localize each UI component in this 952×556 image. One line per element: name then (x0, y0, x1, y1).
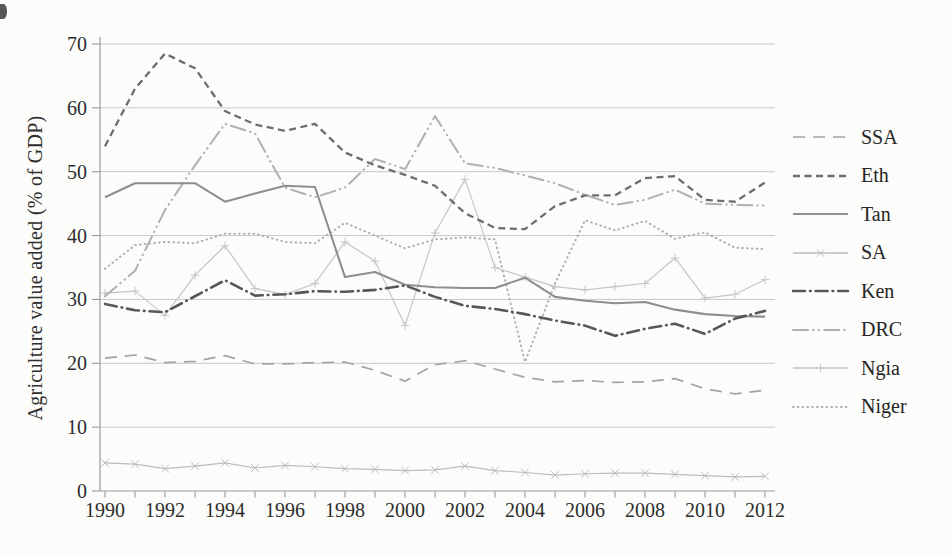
legend-swatch-drc (792, 321, 850, 339)
x-tick-label: 2006 (565, 499, 605, 521)
legend-swatch-niger (792, 398, 850, 416)
series-line-eth (105, 54, 765, 230)
y-tick-label: 50 (67, 161, 87, 183)
legend-entry-ssa: SSA (792, 118, 907, 157)
legend-label-niger: Niger (861, 395, 907, 418)
x-axis-ticks: 1990199219941996199820002002200420062008… (85, 491, 785, 521)
series-drc (105, 116, 765, 296)
legend-label-sa: SA (861, 241, 887, 264)
x-tick-label: 2008 (625, 499, 665, 521)
y-tick-label: 40 (67, 225, 87, 247)
series-ssa (105, 355, 765, 394)
legend-label-tan: Tan (861, 203, 891, 226)
legend-swatch-ssa (792, 128, 850, 146)
x-tick-label: 1996 (265, 499, 305, 521)
x-tick-label: 2004 (505, 499, 545, 521)
series-line-drc (105, 116, 765, 296)
series-line-ssa (105, 355, 765, 394)
legend-entry-ngia: Ngia (792, 349, 907, 388)
x-tick-label: 1990 (85, 499, 125, 521)
legend-label-eth: Eth (861, 164, 889, 187)
x-tick-label: 2012 (745, 499, 785, 521)
series-line-ngia (105, 179, 765, 325)
figure: 0102030405060701990199219941996199820002… (0, 0, 952, 556)
legend-entry-niger: Niger (792, 388, 907, 427)
legend-label-ssa: SSA (861, 126, 898, 149)
y-tick-label: 20 (67, 352, 87, 374)
legend-label-ken: Ken (861, 280, 894, 303)
series-markers-sa (101, 459, 769, 481)
y-tick-label: 70 (67, 33, 87, 55)
series-markers-ngia (101, 175, 769, 330)
legend: SSA Eth Tan SA Ken DRC Ngia Niger (792, 118, 907, 426)
legend-entry-sa: SA (792, 234, 907, 273)
x-tick-label: 1994 (205, 499, 245, 521)
x-tick-label: 2010 (685, 499, 725, 521)
legend-swatch-ken (792, 282, 850, 300)
y-tick-label: 10 (67, 416, 87, 438)
legend-entry-ken: Ken (792, 272, 907, 311)
axes (100, 37, 775, 491)
y-axis-title: Agriculture value added (% of GDP) (24, 38, 52, 498)
series-ngia (101, 175, 769, 330)
legend-swatch-eth (792, 167, 850, 185)
gridlines (100, 44, 775, 427)
series-niger (105, 220, 765, 362)
legend-swatch-ngia (792, 359, 850, 377)
series-line-niger (105, 220, 765, 362)
x-tick-label: 1992 (145, 499, 185, 521)
legend-label-drc: DRC (861, 318, 902, 341)
legend-entry-tan: Tan (792, 195, 907, 234)
y-axis-ticks: 010203040506070 (67, 33, 100, 502)
x-tick-label: 2000 (385, 499, 425, 521)
legend-label-ngia: Ngia (861, 357, 900, 380)
series-eth (105, 54, 765, 230)
legend-swatch-sa (792, 244, 850, 262)
y-tick-label: 30 (67, 288, 87, 310)
legend-entry-eth: Eth (792, 157, 907, 196)
legend-swatch-tan (792, 205, 850, 223)
y-tick-label: 60 (67, 97, 87, 119)
series-sa (101, 459, 769, 481)
x-tick-label: 2002 (445, 499, 485, 521)
legend-entry-drc: DRC (792, 311, 907, 350)
x-tick-label: 1998 (325, 499, 365, 521)
